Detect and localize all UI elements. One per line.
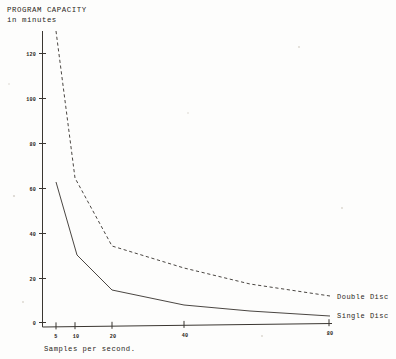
x-tick-label: 10 — [73, 334, 80, 340]
y-tick-label: 0 — [33, 321, 36, 327]
series-line-double-disc — [56, 31, 330, 296]
y-tick-label: 60 — [29, 187, 36, 193]
x-axis-title: Samples per second. — [44, 345, 135, 353]
y-tick-label: 80 — [29, 142, 36, 148]
y-tick-label: 120 — [26, 52, 36, 58]
legend: Double Disc Single Disc — [337, 293, 389, 320]
y-tick-label: 20 — [29, 277, 36, 283]
y-tick-label: 100 — [26, 97, 36, 103]
x-axis: 5 10 20 40 80 Samples per second. — [43, 319, 334, 353]
y-tick-label: 40 — [29, 232, 36, 238]
x-axis-tick-labels: 5 10 20 40 80 — [54, 331, 333, 340]
y-axis: 120 100 80 60 40 20 0 — [26, 31, 46, 327]
x-tick-label: 40 — [182, 333, 189, 339]
legend-label-single-disc: Single Disc — [337, 312, 389, 320]
x-tick-label: 80 — [327, 331, 334, 337]
x-tick-label: 20 — [110, 334, 117, 340]
series-line-single-disc — [56, 182, 330, 316]
paper-specks — [8, 46, 373, 337]
chart-canvas: 120 100 80 60 40 20 0 5 10 20 — [0, 0, 396, 359]
legend-label-double-disc: Double Disc — [337, 293, 389, 301]
chart-page: PROGRAM CAPACITYin minutes — [0, 0, 396, 359]
x-tick-label: 5 — [54, 334, 57, 340]
y-axis-tick-labels: 120 100 80 60 40 20 0 — [26, 52, 36, 327]
